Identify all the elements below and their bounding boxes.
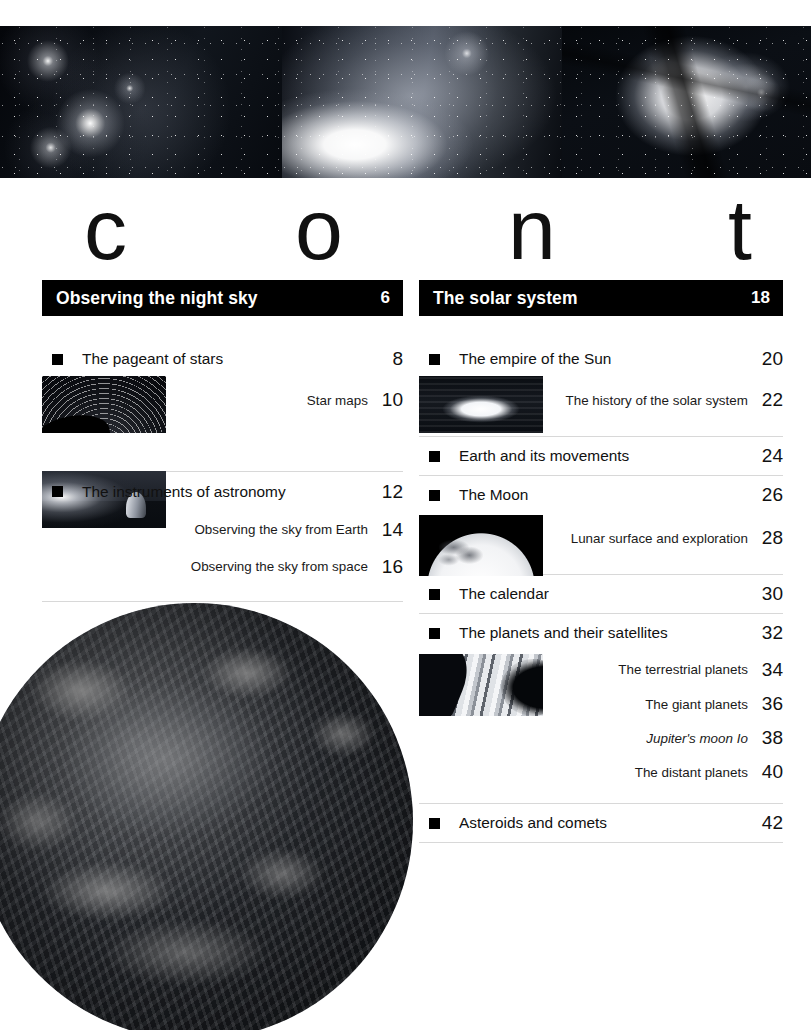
toc-entry-page: 32 xyxy=(762,622,783,644)
toc-entry-jupiters-moon-io[interactable]: Jupiter's moon Io 38 xyxy=(419,721,783,755)
toc-entry-title: Earth and its movements xyxy=(459,447,629,465)
masthead-letter-t: t xyxy=(728,186,752,272)
star-speckle-overlay xyxy=(562,26,811,178)
toc-entry-page: 40 xyxy=(762,761,783,783)
toc-entry-star-maps[interactable]: Star maps 10 xyxy=(42,376,403,424)
toc-entry-title: Lunar surface and exploration xyxy=(571,531,748,546)
spacer xyxy=(419,789,783,803)
section-header-page-number: 6 xyxy=(381,288,390,308)
toc-entry-page: 36 xyxy=(762,693,783,715)
toc-entry-page: 20 xyxy=(762,348,783,370)
toc-entry-title: The pageant of stars xyxy=(82,350,223,368)
toc-entry-observing-the-sky-from-earth[interactable]: Observing the sky from Earth 14 xyxy=(42,511,403,548)
toc-entry-title: Observing the sky from space xyxy=(191,559,368,574)
toc-entry-asteroids-and-comets[interactable]: Asteroids and comets 42 xyxy=(419,804,783,842)
toc-entry-page: 16 xyxy=(382,556,403,578)
toc-entry-the-instruments-of-astronomy[interactable]: The instruments of astronomy 12 xyxy=(42,472,403,511)
section-header-page-number: 18 xyxy=(751,288,770,308)
square-bullet-icon xyxy=(429,354,440,365)
toc-entry-title: Star maps xyxy=(307,393,368,408)
toc-entry-the-terrestrial-planets[interactable]: The terrestrial planets 34 xyxy=(419,652,783,687)
toc-entry-title: The terrestrial planets xyxy=(618,662,748,677)
spacer xyxy=(42,585,403,601)
toc-entry-the-moon[interactable]: The Moon 26 xyxy=(419,476,783,514)
section-header-the-solar-system[interactable]: The solar system 18 xyxy=(419,280,783,316)
toc-entry-page: 30 xyxy=(762,583,783,605)
toc-entry-title: Asteroids and comets xyxy=(459,814,607,832)
masthead-letter-c: c xyxy=(84,186,127,272)
toc-entry-page: 26 xyxy=(762,484,783,506)
toc-entry-title: The planets and their satellites xyxy=(459,624,668,642)
toc-entry-page: 22 xyxy=(762,389,783,411)
toc-entry-page: 14 xyxy=(382,519,403,541)
toc-entry-title: Observing the sky from Earth xyxy=(194,522,367,537)
toc-entry-lunar-surface-and-exploration[interactable]: Lunar surface and exploration 28 xyxy=(419,514,783,562)
earth-terminator-shading xyxy=(0,603,413,1030)
toc-entries-left: The pageant of stars 8 Star maps 10 The … xyxy=(42,342,403,602)
toc-entry-title: The history of the solar system xyxy=(566,393,748,408)
toc-entry-page: 8 xyxy=(392,348,403,370)
toc-entry-page: 24 xyxy=(762,445,783,467)
toc-entry-page: 28 xyxy=(762,527,783,549)
masthead-letter-n: n xyxy=(508,186,556,272)
square-bullet-icon xyxy=(52,354,63,365)
banner-image-comet-and-dust-cloud xyxy=(282,26,562,178)
toc-entry-title: The giant planets xyxy=(645,697,748,712)
toc-entry-the-pageant-of-stars[interactable]: The pageant of stars 8 xyxy=(42,342,403,376)
toc-entry-the-calendar[interactable]: The calendar 30 xyxy=(419,575,783,613)
section-header-observing-the-night-sky[interactable]: Observing the night sky 6 xyxy=(42,280,403,316)
toc-entry-page: 42 xyxy=(762,812,783,834)
star-speckle-overlay xyxy=(282,26,562,178)
toc-entry-page: 34 xyxy=(762,659,783,681)
toc-entry-earth-and-its-movements[interactable]: Earth and its movements 24 xyxy=(419,437,783,475)
square-bullet-icon xyxy=(429,628,440,639)
column-the-solar-system: The solar system 18 The empire of the Su… xyxy=(419,280,783,843)
toc-entry-page: 38 xyxy=(762,727,783,749)
square-bullet-icon xyxy=(429,589,440,600)
square-bullet-icon xyxy=(429,818,440,829)
banner-image-strip xyxy=(0,26,811,178)
toc-entries-right: The empire of the Sun 20 The history of … xyxy=(419,342,783,843)
square-bullet-icon xyxy=(429,490,440,501)
toc-entry-title: The instruments of astronomy xyxy=(82,483,286,501)
toc-entry-the-distant-planets[interactable]: The distant planets 40 xyxy=(419,755,783,789)
toc-entry-the-giant-planets[interactable]: The giant planets 36 xyxy=(419,687,783,721)
toc-entry-title: The empire of the Sun xyxy=(459,350,611,368)
masthead-letter-o: o xyxy=(295,186,343,272)
toc-entry-page: 12 xyxy=(382,481,403,503)
section-header-title: The solar system xyxy=(433,288,578,309)
square-bullet-icon xyxy=(429,451,440,462)
divider xyxy=(42,601,403,602)
star-speckle-overlay xyxy=(0,26,282,178)
banner-image-trifid-nebula xyxy=(562,26,811,178)
toc-entry-the-history-of-the-solar-system[interactable]: The history of the solar system 22 xyxy=(419,376,783,424)
banner-image-nebula-with-bright-stars xyxy=(0,26,282,178)
earth-from-space-image xyxy=(0,603,413,1030)
contents-page: c o n t Observing the night sky 6 The pa… xyxy=(0,0,811,1030)
toc-entry-the-empire-of-the-sun[interactable]: The empire of the Sun 20 xyxy=(419,342,783,376)
section-header-title: Observing the night sky xyxy=(56,288,258,309)
toc-entry-title: Jupiter's moon Io xyxy=(646,731,748,746)
toc-entry-title: The Moon xyxy=(459,486,528,504)
toc-entry-page: 10 xyxy=(382,389,403,411)
square-bullet-icon xyxy=(52,486,63,497)
toc-entry-title: The calendar xyxy=(459,585,549,603)
page-title-contents: c o n t xyxy=(0,186,811,272)
toc-entry-observing-the-sky-from-space[interactable]: Observing the sky from space 16 xyxy=(42,548,403,585)
divider xyxy=(419,842,783,843)
toc-entry-title: The distant planets xyxy=(635,765,748,780)
column-observing-the-night-sky: Observing the night sky 6 The pageant of… xyxy=(42,280,403,602)
toc-entry-the-planets-and-their-satellites[interactable]: The planets and their satellites 32 xyxy=(419,614,783,652)
